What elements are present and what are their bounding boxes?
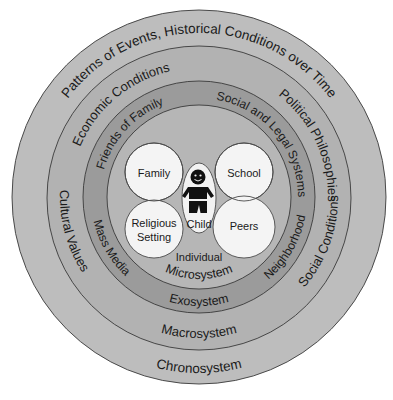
individual-label: Individual (176, 251, 222, 263)
religious-label-line1: Religious (131, 217, 177, 229)
religious-setting-circle (125, 200, 183, 258)
religious-label-line2: Setting (137, 231, 171, 243)
child-node: Child (182, 163, 216, 233)
family-label: Family (138, 167, 171, 179)
peers-label: Peers (230, 220, 259, 232)
child-label: Child (186, 218, 211, 230)
school-label: School (227, 167, 261, 179)
ecological-systems-diagram: Patterns of Events, Historical Condition… (0, 0, 393, 400)
